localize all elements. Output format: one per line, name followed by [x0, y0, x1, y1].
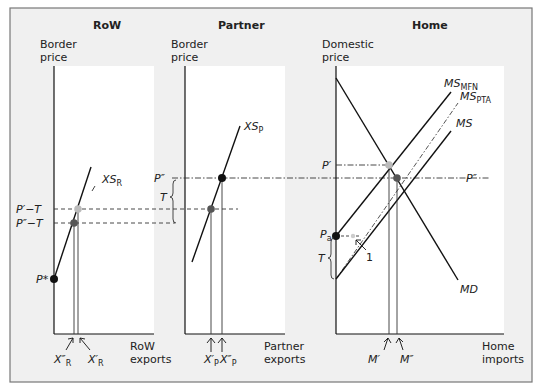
- partner-x-label-2: exports: [264, 353, 306, 366]
- p-prime-minus-t-label: P′−T: [16, 203, 42, 216]
- row-x-label-1: RoW: [130, 340, 155, 353]
- home-prime-dot: [385, 161, 393, 169]
- home-x-label-1: Home: [482, 340, 515, 353]
- p-star-label: P*: [36, 273, 49, 286]
- partner-prime-dot: [207, 205, 215, 213]
- p-prime-label-home: P′: [322, 159, 332, 172]
- home-x-label-2: imports: [482, 353, 524, 366]
- ms-label: MS: [456, 117, 472, 130]
- m-prime-label: M′: [368, 353, 380, 366]
- pa-dot: [332, 232, 340, 240]
- partner-x-label-1: Partner: [264, 340, 304, 353]
- md-label: MD: [460, 283, 478, 296]
- p-dprime-label-home: P″: [466, 172, 478, 185]
- diagram-canvas: RoW Border price XSR P′−T P″−T P* X″R X′…: [0, 0, 542, 390]
- partner-y-label-1: Border: [171, 38, 208, 51]
- one-label: 1: [366, 251, 373, 264]
- p-dprime-minus-t-label: P″−T: [16, 217, 44, 230]
- m-dprime-label: M″: [400, 353, 414, 366]
- home-y-label-1: Domestic: [322, 38, 374, 51]
- row-dprime-dot: [70, 219, 78, 227]
- home-y-label-2: price: [322, 51, 350, 64]
- home-plot-area: [336, 66, 504, 334]
- trade-diagram: RoW Border price XSR P′−T P″−T P* X″R X′…: [0, 0, 542, 390]
- partner-plot-area: [185, 66, 285, 334]
- row-x-label-2: exports: [130, 353, 172, 366]
- row-plot-area: [54, 66, 154, 334]
- row-title: RoW: [93, 19, 121, 32]
- p-star-dot: [50, 275, 58, 283]
- row-prime-dot: [74, 205, 82, 213]
- partner-dprime-dot: [218, 174, 226, 182]
- row-y-label-2: price: [40, 51, 68, 64]
- p-dprime-label: P″: [154, 172, 166, 185]
- pta-kink-dot: [351, 234, 355, 238]
- partner-y-label-2: price: [171, 51, 199, 64]
- row-y-label-1: Border: [40, 38, 77, 51]
- partner-title: Partner: [218, 19, 265, 32]
- home-dprime-dot: [393, 174, 401, 182]
- home-title: Home: [412, 19, 448, 32]
